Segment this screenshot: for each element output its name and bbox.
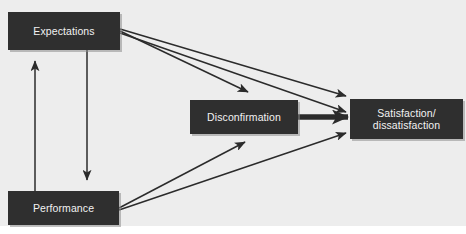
node-expectations[interactable]: Expectations [8,12,120,50]
node-satisfaction[interactable]: Satisfaction/ dissatisfaction [350,99,463,139]
node-expectations-label: Expectations [33,25,94,37]
node-disconfirmation[interactable]: Disconfirmation [190,100,298,134]
node-satisfaction-label: Satisfaction/ dissatisfaction [373,107,440,132]
edge-performance-to-satisfaction [119,133,346,210]
node-disconfirmation-label: Disconfirmation [207,111,281,123]
node-satisfaction-label-line2: dissatisfaction [373,119,440,131]
node-satisfaction-label-line1: Satisfaction/ [373,107,440,119]
edge-performance-to-disconfirmation [119,142,245,208]
edge-expectations-to-satisfaction [120,29,346,96]
node-performance-label: Performance [33,202,94,214]
diagram-canvas: Expectations Performance Disconfirmation… [0,0,466,234]
node-performance[interactable]: Performance [8,191,119,225]
